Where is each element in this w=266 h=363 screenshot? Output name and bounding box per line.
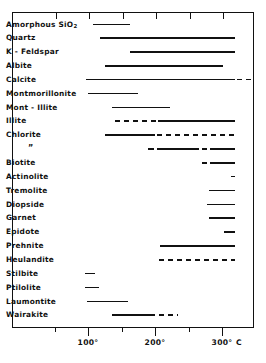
temperature-axis: 100°200°300°C: [12, 328, 254, 362]
stability-range-solid: [105, 134, 155, 136]
axis-tick-major: [155, 328, 156, 336]
axis-tick-major: [222, 328, 223, 336]
stability-range-solid: [210, 162, 235, 164]
stability-range-solid: [130, 51, 236, 53]
stability-range-solid: [202, 162, 207, 164]
stability-range-solid: [209, 190, 236, 192]
mineral-stability-chart: Amorphous SiO2QuartzK - FeldsparAlbiteCa…: [0, 0, 266, 363]
mineral-label: Garnet: [6, 213, 36, 222]
stability-range-dashed: [115, 120, 159, 122]
mineral-label: Heulandite: [6, 254, 54, 263]
mineral-label: Chlorite: [6, 130, 41, 139]
axis-tick-minor: [189, 328, 190, 332]
stability-range-dashed: [237, 79, 254, 81]
mineral-label: Actinolite: [6, 171, 49, 180]
mineral-label: Illite: [6, 116, 26, 125]
axis-tick-minor: [122, 328, 123, 332]
stability-range-solid: [112, 314, 155, 316]
mineral-row: Wairakite: [0, 305, 266, 324]
stability-range-solid: [210, 148, 235, 150]
axis-tick-major: [88, 328, 89, 336]
axis-unit-label: C: [236, 338, 242, 347]
mineral-label: Prehnite: [6, 241, 44, 250]
stability-range-solid: [157, 148, 199, 150]
mineral-label: Amorphous SiO2: [6, 19, 77, 28]
stability-range-solid: [160, 245, 235, 247]
mineral-label: Mont - Illite: [6, 102, 58, 111]
mineral-label: Stilbite: [6, 268, 38, 277]
stability-range-solid: [100, 37, 235, 39]
stability-range-solid: [85, 287, 99, 289]
stability-range-solid: [231, 176, 236, 178]
stability-range-solid: [93, 24, 130, 26]
mineral-label: Tremolite: [6, 185, 48, 194]
mineral-label: Ptilolite: [6, 282, 41, 291]
stability-range-solid: [202, 148, 207, 150]
mineral-label: Biotite: [6, 158, 36, 167]
stability-range-solid: [112, 107, 170, 109]
stability-range-solid: [86, 79, 235, 81]
stability-range-solid: [209, 217, 235, 219]
axis-tick-label: 200°: [145, 338, 166, 347]
stability-range-solid: [105, 65, 223, 67]
mineral-label: ”: [28, 144, 33, 153]
mineral-label: K - Feldspar: [6, 47, 59, 56]
mineral-label: Calcite: [6, 74, 36, 83]
axis-tick-label: 100°: [78, 338, 99, 347]
stability-range-solid: [224, 231, 235, 233]
stability-range-solid: [87, 301, 128, 303]
mineral-label: Diopside: [6, 199, 44, 208]
mineral-label: Quartz: [6, 33, 36, 42]
mineral-label: Albite: [6, 61, 32, 70]
stability-range-dashed: [159, 259, 235, 261]
stability-range-solid: [85, 273, 94, 275]
stability-range-dashed: [159, 314, 178, 316]
mineral-label: Wairakite: [6, 310, 48, 319]
stability-range-solid: [148, 148, 153, 150]
mineral-label: Epidote: [6, 227, 40, 236]
stability-range-solid: [158, 120, 235, 122]
stability-range-solid: [88, 93, 138, 95]
stability-range-solid: [207, 204, 235, 206]
stability-range-dashed: [157, 134, 235, 136]
mineral-label: Montmorillonite: [6, 88, 76, 97]
axis-tick-label: 300°: [212, 338, 233, 347]
axis-tick-minor: [55, 328, 56, 332]
mineral-label: Laumontite: [6, 296, 56, 305]
